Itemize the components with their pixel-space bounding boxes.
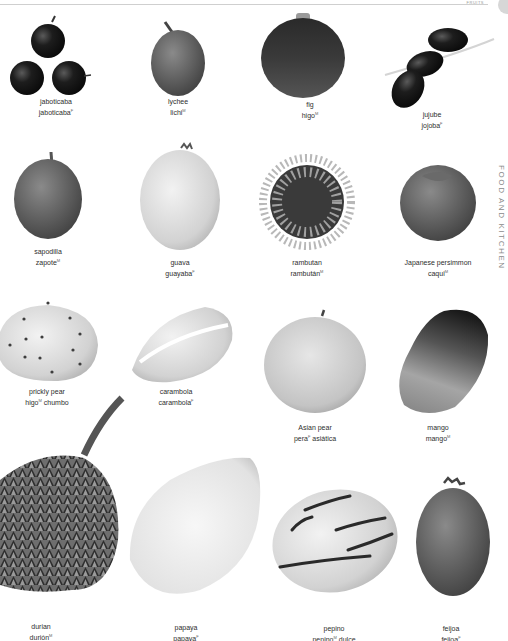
fruit-label-jujube: jujubejojobaF <box>421 111 442 130</box>
fig-illustration <box>261 13 345 98</box>
jaboticaba-illustration <box>10 16 91 95</box>
carambola-illustration <box>132 307 232 382</box>
sapodilla-illustration <box>14 152 82 239</box>
jujube-illustration <box>385 28 494 114</box>
fruit-label-carambola: carambolacarambolaF <box>158 388 193 407</box>
fruit-label-guava: guavaguayabaF <box>165 259 194 278</box>
asian-pear-illustration <box>264 310 366 413</box>
fruit-label-fig: fighigoM <box>302 101 319 120</box>
lychee-illustration <box>151 22 205 96</box>
fruit-label-pepino: pepinopepinoM dulce <box>312 625 355 641</box>
feijoa-illustration <box>416 478 490 596</box>
fruit-label-jaboticaba: jaboticabajaboticabaF <box>39 98 73 117</box>
fruit-label-asian-pear: Asian pearperaF asiática <box>294 424 336 443</box>
fruit-label-papaya: papayapapayaF <box>173 624 198 641</box>
fruit-label-durian: durianduriónM <box>30 623 53 641</box>
fruit-label-prickly-pear: prickly pearhigoM chumbo <box>25 388 68 407</box>
fruit-label-sapodilla: sapodillazapoteM <box>34 248 62 267</box>
prickly-pear-illustration <box>0 301 98 381</box>
fruit-label-lychee: lycheelichiM <box>168 98 188 117</box>
durian-illustration <box>0 398 122 592</box>
mango-illustration <box>399 310 488 413</box>
guava-illustration <box>140 144 220 250</box>
fruit-label-rambutan: rambutanrambutánM <box>291 259 324 278</box>
persimmon-illustration <box>400 165 476 241</box>
rambutan-illustration <box>263 158 351 246</box>
pepino-illustration <box>263 478 407 604</box>
fruit-label-feijoa: feijoafeijoaF <box>441 625 460 641</box>
fruit-label-mango: mangomangoM <box>426 424 451 443</box>
fruit-illustrations <box>0 0 508 641</box>
fruit-label-japanese-persimmon: Japanese persimmoncaquiM <box>405 259 472 278</box>
papaya-illustration <box>130 458 260 594</box>
